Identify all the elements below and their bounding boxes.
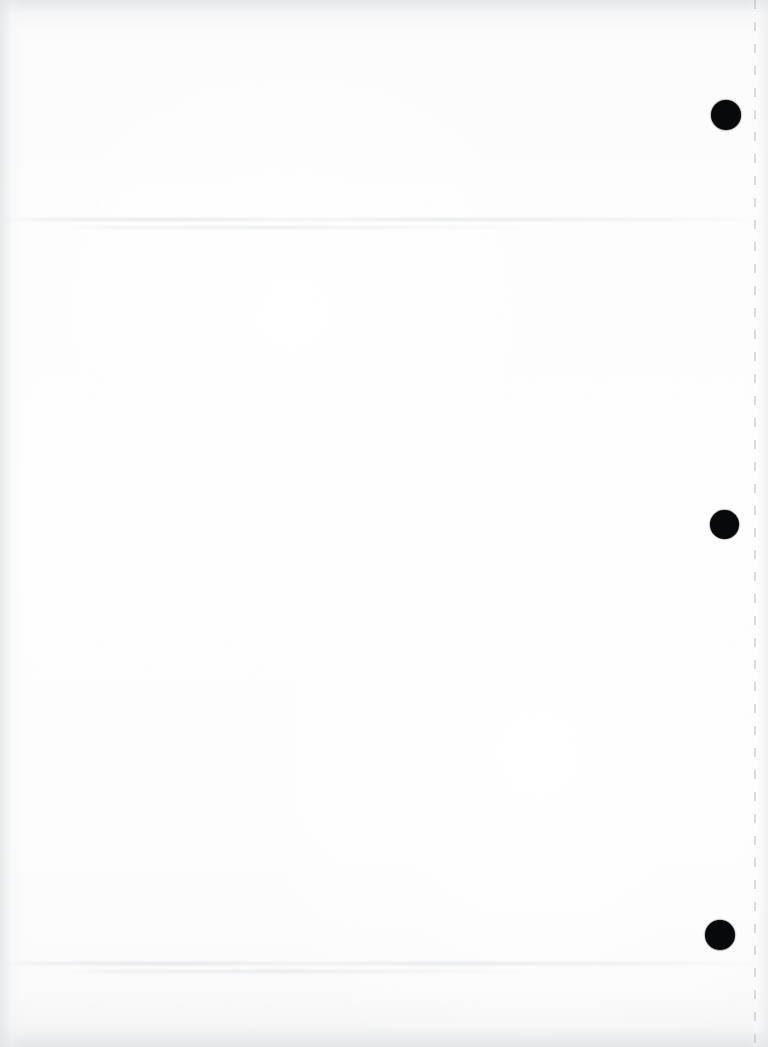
page-edge-shadow-top — [0, 0, 768, 22]
registration-mark-1 — [711, 100, 741, 130]
page-edge-shadow-bottom — [0, 1013, 768, 1047]
registration-mark-3 — [705, 920, 735, 950]
scanned-page — [0, 0, 768, 1047]
page-edge-shadow-left — [0, 0, 26, 1047]
registration-mark-2 — [710, 510, 739, 539]
perforation-line — [754, 0, 756, 1047]
page-body-text — [60, 60, 708, 987]
page-edge-shadow-right — [748, 0, 768, 1047]
